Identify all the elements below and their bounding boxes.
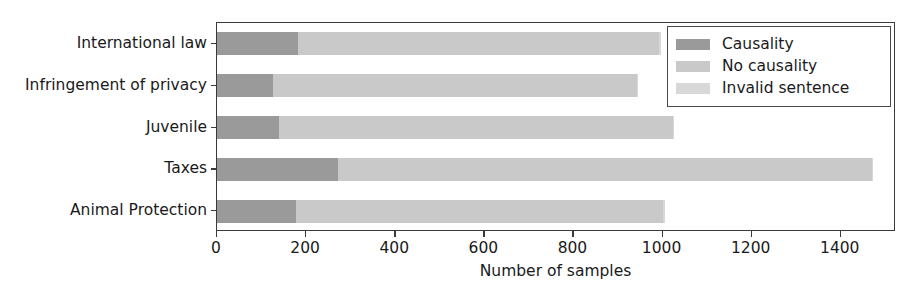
bar-segment-invalid-sentence — [637, 74, 638, 97]
bar-segment-causality — [217, 116, 279, 139]
legend-item-invalid-sentence: Invalid sentence — [676, 77, 882, 99]
causality-swatch-icon — [676, 39, 710, 50]
y-tick-label: Taxes — [0, 159, 207, 177]
y-tick-label: Juvenile — [0, 118, 207, 136]
y-tick-label: International law — [0, 34, 207, 52]
x-tick-label: 1400 — [820, 239, 859, 257]
bar-segment-no-causality — [338, 158, 872, 181]
x-tick-mark — [394, 231, 395, 237]
legend-label-invalid-sentence: Invalid sentence — [722, 79, 849, 97]
x-tick-label: 800 — [558, 239, 588, 257]
x-tick-label: 1200 — [731, 239, 770, 257]
x-tick-mark — [751, 231, 752, 237]
bar-segment-causality — [217, 200, 296, 223]
bar-segment-invalid-sentence — [872, 158, 873, 181]
bar-segment-invalid-sentence — [673, 116, 674, 139]
x-tick-mark — [305, 231, 306, 237]
x-tick-label: 200 — [290, 239, 320, 257]
legend-item-no-causality: No causality — [676, 55, 882, 77]
invalid-sentence-swatch-icon — [676, 83, 710, 94]
bar-row — [217, 158, 873, 181]
bar-segment-causality — [217, 32, 298, 55]
x-tick-mark — [662, 231, 663, 237]
y-tick-label: Animal Protection — [0, 201, 207, 219]
x-tick-label: 0 — [211, 239, 221, 257]
legend-label-causality: Causality — [722, 35, 794, 53]
x-tick-label: 1000 — [642, 239, 681, 257]
bar-segment-invalid-sentence — [659, 32, 661, 55]
bar-segment-invalid-sentence — [663, 200, 665, 223]
no-causality-swatch-icon — [676, 61, 710, 72]
bar-row — [217, 74, 638, 97]
bar-segment-no-causality — [298, 32, 659, 55]
y-tick-label: Infringement of privacy — [0, 76, 207, 94]
bar-row — [217, 32, 661, 55]
x-tick-mark — [216, 231, 217, 237]
bar-row — [217, 116, 674, 139]
bar-segment-causality — [217, 74, 273, 97]
x-tick-label: 400 — [379, 239, 409, 257]
x-tick-mark — [840, 231, 841, 237]
legend-item-causality: Causality — [676, 33, 882, 55]
bar-row — [217, 200, 665, 223]
legend-label-no-causality: No causality — [722, 57, 817, 75]
x-axis-label: Number of samples — [216, 262, 895, 280]
x-tick-mark — [483, 231, 484, 237]
bar-segment-no-causality — [279, 116, 673, 139]
bar-segment-no-causality — [296, 200, 664, 223]
bar-segment-causality — [217, 158, 338, 181]
x-tick-label: 600 — [469, 239, 499, 257]
bar-chart-figure: International lawInfringement of privacy… — [0, 0, 918, 288]
x-tick-mark — [572, 231, 573, 237]
chart-legend: Causality No causality Invalid sentence — [667, 26, 891, 107]
bar-segment-no-causality — [273, 74, 637, 97]
